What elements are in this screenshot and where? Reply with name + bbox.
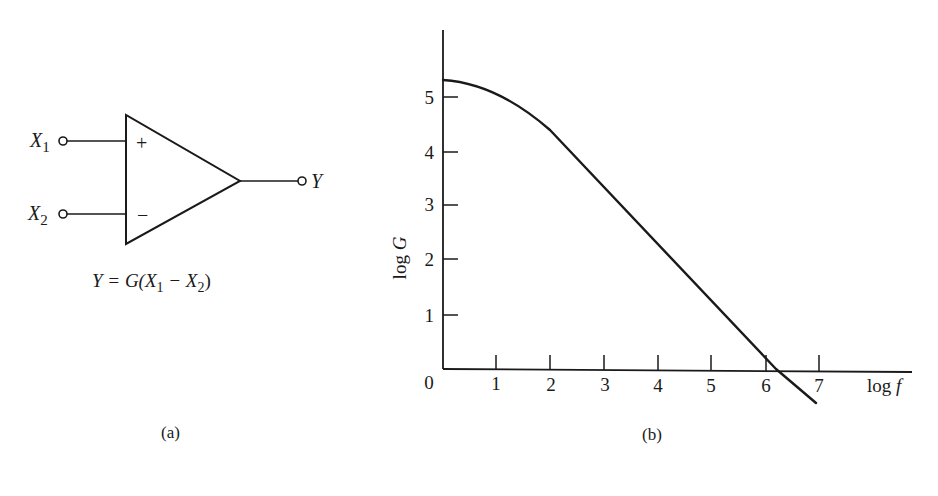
gain-plot: 1 2 3 4 5 1 2 3 4 5 6 7 0 log f log — [389, 30, 912, 444]
input1-terminal — [59, 137, 67, 145]
svg-text:1: 1 — [491, 373, 501, 394]
y-tick-labels: 1 2 3 4 5 — [425, 87, 435, 326]
output-label: Y — [311, 170, 324, 192]
input2-terminal — [59, 210, 67, 218]
gain-equation: Y = G(X1 − X2) — [92, 270, 211, 295]
svg-text:5: 5 — [425, 87, 435, 108]
y-ticks — [443, 97, 458, 315]
svg-text:4: 4 — [425, 142, 435, 163]
gain-curve — [443, 80, 816, 403]
input1-label: X1 — [29, 129, 50, 155]
svg-text:3: 3 — [425, 194, 435, 215]
svg-text:3: 3 — [600, 374, 610, 395]
input2-label: X2 — [27, 202, 48, 228]
op-amp-diagram: + − X1 X2 Y Y = G(X1 − X2) (a) — [27, 115, 324, 442]
svg-text:1: 1 — [425, 305, 435, 326]
x-tick-labels: 1 2 3 4 5 6 7 — [491, 373, 824, 396]
y-axis-title: log G — [389, 236, 410, 279]
x-axis-title: log f — [867, 375, 904, 396]
x-axis — [443, 369, 912, 372]
svg-text:5: 5 — [706, 375, 716, 396]
svg-text:2: 2 — [546, 374, 556, 395]
plus-sign: + — [136, 132, 147, 154]
svg-text:4: 4 — [653, 375, 663, 396]
svg-text:6: 6 — [761, 375, 771, 396]
caption-b: (b) — [642, 425, 662, 444]
minus-sign: − — [137, 204, 148, 226]
svg-text:7: 7 — [814, 375, 824, 396]
origin-label: 0 — [424, 372, 434, 393]
output-terminal — [298, 177, 306, 185]
figure-canvas: + − X1 X2 Y Y = G(X1 − X2) (a) 1 2 3 4 5 — [0, 0, 938, 496]
caption-a: (a) — [161, 423, 180, 442]
svg-text:2: 2 — [425, 249, 435, 270]
